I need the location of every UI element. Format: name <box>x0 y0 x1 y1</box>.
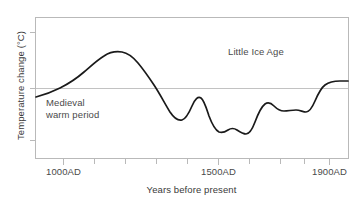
x-axis-title: Years before present <box>35 184 348 195</box>
x-tick-label-1900ad: 1900AD <box>312 166 347 177</box>
y-axis-ticks <box>30 33 36 141</box>
annotation-little-ice-age: Little Ice Age <box>228 46 284 58</box>
x-tick-label-1500ad: 1500AD <box>201 166 236 177</box>
x-tick-label-1000ad: 1000AD <box>46 166 81 177</box>
x-axis-ticks <box>64 159 330 166</box>
annotation-medieval-warm-period: Medieval warm period <box>46 97 99 120</box>
climate-temperature-chart: Temperature change (°C) 1000 <box>0 0 362 204</box>
temperature-curve <box>36 52 348 134</box>
y-axis-title: Temperature change (°C) <box>15 11 26 161</box>
